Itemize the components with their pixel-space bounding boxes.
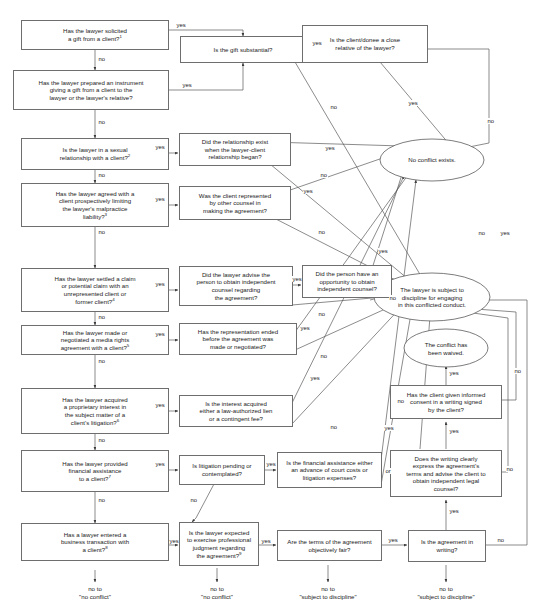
outcome-waived-label: The conflict has been waived. (404, 341, 488, 356)
edge-label-q3-no: no (98, 172, 106, 178)
edge-label-q16-yes: yes (300, 325, 310, 331)
edge-label-q3-yes: yes (155, 144, 165, 150)
edge-label-q12-no: no (320, 172, 328, 178)
node-q22[interactable]: Is the agreement inwriting? (408, 530, 486, 562)
edge-label-q17-no: no (330, 424, 338, 430)
edge-label-q19-yes: yes (384, 425, 394, 431)
edge-label-q16-no: no (320, 353, 328, 359)
node-q3-label: Is the lawyer in a sexualrelationship wi… (24, 146, 166, 161)
edge-label-q7-no: no (98, 437, 106, 443)
edge-label-q11-no: no (487, 118, 495, 124)
node-q14-label: Did the lawyer advise theperson to obtai… (182, 271, 290, 301)
node-q5[interactable]: Has the lawyer settled a claimor potenti… (21, 268, 169, 312)
edge-label-q13-yes: yes (303, 188, 313, 194)
node-q24-label: Does the writing clearlyexpress the agre… (393, 455, 499, 493)
node-q2[interactable]: Has the lawyer prepared an instrumentgiv… (13, 70, 169, 110)
edge-label-q1-no: no (98, 56, 106, 62)
node-q10[interactable]: Is the gift substantial? (180, 36, 306, 63)
edge-label-q19-or: or (385, 468, 391, 474)
node-q7[interactable]: Has the lawyer acquireda proprietary int… (21, 388, 169, 434)
edge-label-q23-yes: yes (449, 370, 459, 376)
node-q19[interactable]: Is the financial assistance eitheran adv… (277, 452, 382, 488)
edge-label-right-rail-no: no (478, 230, 486, 236)
node-q17[interactable]: Is the interest acquiredeither a law-aut… (179, 395, 293, 427)
node-q9-label: Has a lawyer entered abusiness transacti… (24, 531, 166, 554)
node-q19-label: Is the financial assistance eitheran adv… (280, 459, 379, 482)
node-q16-label: Has the representation endedbefore the a… (182, 328, 294, 351)
node-q13-label: Was the client representedby other couns… (182, 192, 288, 215)
node-q8-label: Has the lawyer providedfinancial assista… (24, 460, 166, 483)
edge-label-q8-no: no (98, 497, 106, 503)
node-q14[interactable]: Did the lawyer advise theperson to obtai… (179, 266, 293, 306)
edge-label-q11-yes: yes (408, 100, 418, 106)
edge-label-q5-no: no (98, 314, 106, 320)
node-q7-label: Has the lawyer acquireda proprietary int… (24, 396, 166, 426)
node-q22-label: Is the agreement inwriting? (411, 538, 483, 553)
edge-label-q2-no: no (98, 119, 106, 125)
node-q18[interactable]: Is litigation pending orcontemplated? (179, 455, 265, 485)
edge-label-q23-no: no (514, 368, 522, 374)
edge-label-q4-no: no (98, 229, 106, 235)
node-q8[interactable]: Has the lawyer providedfinancial assista… (21, 450, 169, 492)
edge-label-q4-yes: yes (155, 196, 165, 202)
terminal-no-to-no-conflict-1: no to "no conflict" (55, 585, 135, 601)
outcome-no-conflict-label: No conflict exists. (382, 156, 482, 164)
edge-label-q10-no: no (330, 104, 338, 110)
node-q23[interactable]: Has the client given informedconsent in … (390, 385, 502, 419)
terminal-no-to-subject-discipline-1: no to "subject to discipline" (278, 585, 378, 601)
edge-label-q14-no: no (318, 311, 326, 317)
node-q5-label: Has the lawyer settled a claimor potenti… (24, 275, 166, 305)
node-q17-label: Is the interest acquiredeither a law-aut… (182, 400, 290, 423)
node-q6-label: Has the lawyer made ornegotiated a media… (24, 329, 166, 352)
node-q3[interactable]: Is the lawyer in a sexualrelationship wi… (21, 138, 169, 170)
edge-label-right-rail-yes: yes (500, 230, 510, 236)
edge-label-q2-yes: yes (182, 82, 192, 88)
edge-label-q10-yes: yes (312, 40, 322, 46)
edge-label-q24-no: no (506, 466, 514, 472)
edge-label-q9-yes: yes (169, 538, 179, 544)
node-q13[interactable]: Was the client representedby other couns… (179, 186, 291, 220)
node-q10-label: Is the gift substantial? (183, 46, 303, 54)
node-q23-label: Has the client given informedconsent in … (393, 391, 499, 414)
terminal-no-to-no-conflict-2: no to "no conflict" (177, 585, 257, 601)
node-q16[interactable]: Has the representation endedbefore the a… (179, 323, 297, 355)
node-q4-label: Has the lawyer agreed with aclient prosp… (24, 190, 166, 220)
edge-label-q13-no: no (318, 229, 326, 235)
node-q18-label: Is litigation pending orcontemplated? (182, 462, 262, 477)
node-q12[interactable]: Did the relationship existwhen the lawye… (179, 133, 291, 166)
edge-label-q24-yes: yes (449, 428, 459, 434)
edge-label-q1-yes: yes (176, 22, 186, 28)
edge-label-q20-yes: yes (261, 538, 271, 544)
edge-label-q8-yes: yes (155, 461, 165, 467)
edge-label-q6-yes: yes (155, 331, 165, 337)
node-q1[interactable]: Has the lawyer soliciteda gift from a cl… (21, 20, 169, 50)
edge-label-q19-no: no (397, 398, 405, 404)
node-q9[interactable]: Has a lawyer entered abusiness transacti… (21, 523, 169, 561)
edge-label-q7-yes: yes (155, 402, 165, 408)
edge-label-q22-yes: yes (449, 508, 459, 514)
node-q12-label: Did the relationship existwhen the lawye… (182, 138, 288, 161)
edge-label-q14-yes: yes (292, 276, 302, 282)
edge-label-q18-yes: yes (266, 461, 276, 467)
node-q11-label: Is the client/donee a closerelative of t… (305, 36, 425, 51)
node-q24[interactable]: Does the writing clearlyexpress the agre… (390, 450, 502, 497)
node-q20-label: Is the lawyer expectedto exercise profes… (182, 529, 256, 559)
edge-label-q17-yes: yes (310, 375, 320, 381)
node-q1-label: Has the lawyer soliciteda gift from a cl… (24, 27, 166, 42)
flowchart-canvas: Has the lawyer soliciteda gift from a cl… (0, 0, 539, 616)
edge-label-q21-yes: yes (388, 537, 398, 543)
edge-label-q22-no: no (497, 537, 505, 543)
node-q21[interactable]: Are the terms of the agreementobjectivel… (277, 530, 382, 561)
edge-label-q5-yes: yes (155, 281, 165, 287)
edge-label-q18-no: no (190, 497, 198, 503)
node-q20[interactable]: Is the lawyer expectedto exercise profes… (179, 522, 259, 566)
node-q21-label: Are the terms of the agreementobjectivel… (280, 538, 379, 553)
edge-label-q15-yes: yes (378, 248, 388, 254)
node-q2-label: Has the lawyer prepared an instrumentgiv… (16, 79, 166, 102)
edge-label-q12-yes: yes (325, 145, 335, 151)
terminal-no-to-subject-discipline-2: no to "subject to discipline" (396, 585, 496, 601)
node-q4[interactable]: Has the lawyer agreed with aclient prosp… (21, 183, 169, 227)
edge-label-q6-no: no (98, 358, 106, 364)
node-q6[interactable]: Has the lawyer made ornegotiated a media… (21, 325, 169, 355)
edge-label-q15-no: no (389, 295, 397, 301)
